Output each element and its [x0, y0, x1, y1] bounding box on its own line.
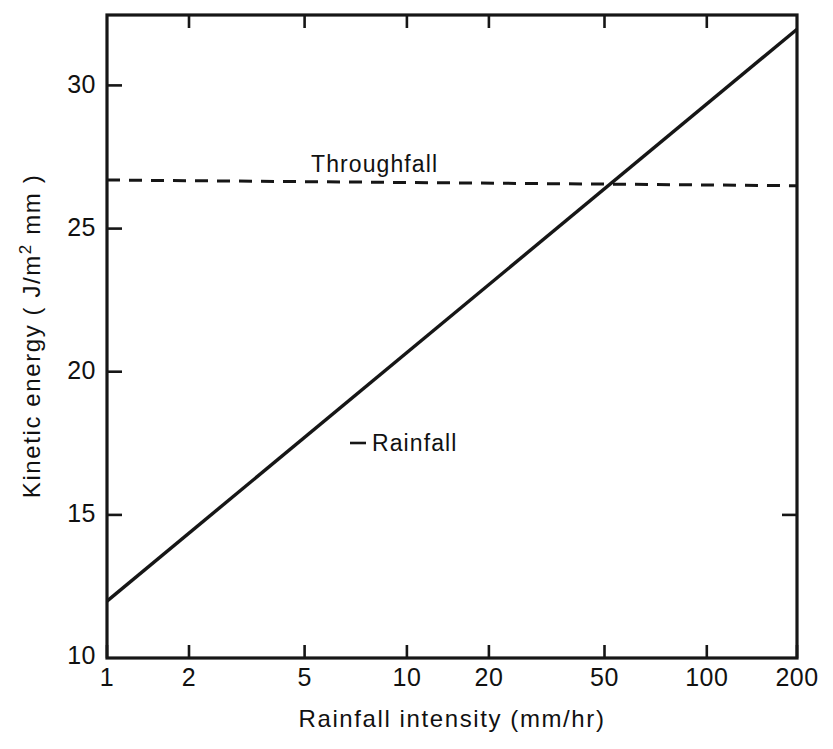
x-tick-label: 1: [100, 663, 114, 691]
svg-text:Kinetic energy ( J/m2 mm ): Kinetic energy ( J/m2 mm ): [16, 174, 45, 498]
kinetic-energy-vs-rainfall-intensity-chart: 30 25 20 15 10: [0, 0, 833, 749]
y-axis-title: Kinetic energy ( J/m2 mm ): [16, 174, 45, 498]
y-axis-title-tail: mm ): [18, 174, 45, 243]
y-tick-label: 10: [67, 641, 96, 669]
y-tick-label: 15: [67, 499, 96, 527]
x-tick-label: 10: [392, 663, 421, 691]
y-tick-label: 20: [67, 356, 96, 384]
y-axis-tick-labels: 30 25 20 15 10: [67, 70, 96, 669]
x-tick-label: 100: [685, 663, 728, 691]
annotation-rainfall: Rainfall: [372, 430, 458, 456]
x-tick-label: 2: [182, 663, 196, 691]
annotation-throughfall: Throughfall: [311, 151, 438, 177]
x-axis-title: Rainfall intensity (mm/hr): [299, 705, 606, 732]
y-axis-ticks: [107, 85, 122, 515]
y-tick-label: 25: [67, 213, 96, 241]
y-tick-label: 30: [67, 70, 96, 98]
series-line-rainfall: [107, 29, 797, 601]
x-axis-ticks-bottom: [107, 645, 797, 658]
x-tick-label: 20: [474, 663, 503, 691]
x-tick-label: 200: [775, 663, 818, 691]
series-line-throughfall: [107, 180, 797, 186]
y-axis-title-main: Kinetic energy ( J/m: [18, 254, 45, 498]
x-tick-label: 5: [297, 663, 311, 691]
x-tick-label: 50: [590, 663, 619, 691]
plot-frame: [107, 15, 797, 658]
x-axis-tick-labels: 1 2 5 10 20 50 100 200: [100, 663, 819, 691]
x-axis-ticks-top: [189, 15, 707, 28]
y-axis-title-superscript: 2: [16, 243, 35, 254]
figure-container: 30 25 20 15 10: [0, 0, 833, 749]
